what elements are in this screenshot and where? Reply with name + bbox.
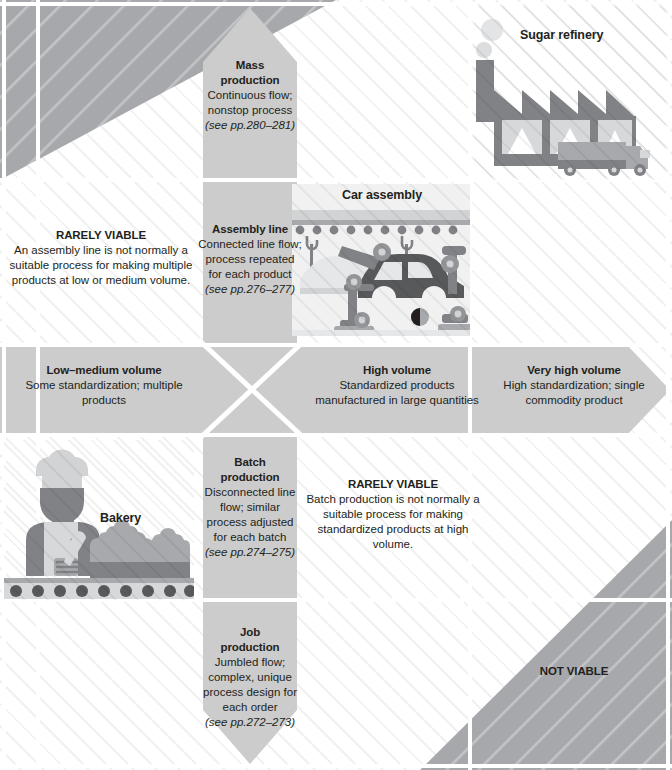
gridline-v-0: [2, 0, 6, 770]
process-step-job-production: Job production Jumbled flow; complex, un…: [200, 625, 300, 730]
volume-level-very-high-heading: Very high volume: [489, 363, 659, 378]
process-step-job-source: (see pp.272–273): [200, 715, 300, 730]
gridline-h-5: [0, 764, 672, 768]
process-step-batch-heading-2: production: [203, 470, 297, 485]
process-step-mass-body: Continuous flow; nonstop process: [203, 88, 297, 118]
volume-level-low-medium-body: Some standardization; multiple products: [14, 378, 194, 408]
process-step-job-heading-2: production: [200, 640, 300, 655]
note-rarely-viable-assembly-heading: RARELY VIABLE: [8, 228, 194, 243]
process-step-mass-heading-1: Mass: [203, 58, 297, 73]
process-step-job-body: Jumbled flow; complex, unique process de…: [200, 655, 300, 715]
gridline-h-2: [0, 343, 672, 347]
note-not-viable-heading: NOT VIABLE: [489, 664, 659, 679]
process-step-assembly-source: (see pp.276–277): [198, 282, 302, 297]
note-rarely-viable-batch-body: Batch production is not normally a suita…: [305, 492, 481, 552]
note-rarely-viable-batch: RARELY VIABLE Batch production is not no…: [305, 477, 481, 552]
process-step-batch-source: (see pp.274–275): [203, 545, 297, 560]
process-step-mass-production: Mass production Continuous flow; nonstop…: [203, 58, 297, 133]
illustration-title-sugar-refinery: Sugar refinery: [520, 28, 603, 42]
volume-level-high-body: Standardized products manufactured in la…: [307, 378, 487, 408]
volume-level-very-high-body: High standardization; single commodity p…: [489, 378, 659, 408]
volume-level-low-medium-heading: Low–medium volume: [14, 363, 194, 378]
note-rarely-viable-batch-heading: RARELY VIABLE: [305, 477, 481, 492]
note-rarely-viable-assembly: RARELY VIABLE An assembly line is not no…: [8, 228, 194, 288]
illustration-car-assembly: [292, 184, 470, 336]
non-viable-region-bottom-right: [420, 520, 672, 770]
gridline-h-3: [0, 433, 672, 437]
process-step-batch-heading-1: Batch: [203, 455, 297, 470]
process-step-assembly-line: Assembly line Connected line flow; proce…: [198, 222, 302, 297]
process-step-mass-heading-2: production: [203, 73, 297, 88]
diagram-canvas: Sugar refinery: [0, 0, 672, 770]
process-step-batch-body: Disconnected line flow; similar process …: [203, 485, 297, 545]
volume-level-very-high: Very high volume High standardization; s…: [489, 363, 659, 408]
process-step-assembly-body: Connected line flow; process repeated fo…: [198, 237, 302, 282]
volume-level-low-medium: Low–medium volume Some standardization; …: [14, 363, 194, 408]
illustration-title-bakery: Bakery: [100, 511, 141, 525]
illustration-bakery: [4, 440, 194, 600]
process-step-batch-production: Batch production Disconnected line flow;…: [203, 455, 297, 560]
note-rarely-viable-assembly-body: An assembly line is not normally a suita…: [8, 243, 194, 288]
volume-level-high-heading: High volume: [307, 363, 487, 378]
process-step-assembly-heading-1: Assembly line: [198, 222, 302, 237]
process-step-mass-source: (see pp.280–281): [203, 118, 297, 133]
note-not-viable: NOT VIABLE: [489, 664, 659, 679]
process-step-job-heading-1: Job: [200, 625, 300, 640]
volume-level-high: High volume Standardized products manufa…: [307, 363, 487, 408]
illustration-title-car-assembly: Car assembly: [342, 188, 422, 202]
